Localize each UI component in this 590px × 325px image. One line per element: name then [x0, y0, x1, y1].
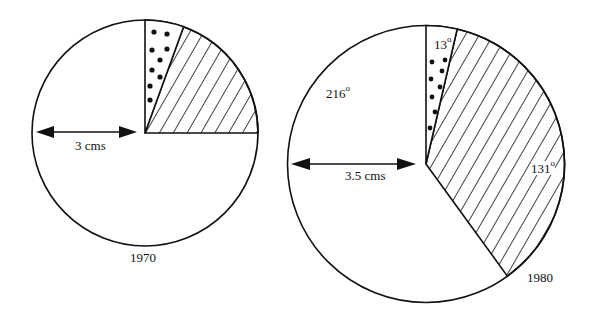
radius-label-1980: 3.5 cms [345, 169, 385, 182]
year-label-1980: 1980 [527, 271, 553, 284]
pie-charts-svg [0, 0, 590, 325]
angle-label-13: 13o [434, 37, 452, 51]
angle-label-131: 131o [531, 161, 555, 175]
pie-diagram: 3 cms 1970 3.5 cms 1980 216o 13o 131o [0, 0, 590, 325]
pie-1980 [288, 25, 565, 302]
angle-label-216: 216o [326, 86, 350, 100]
pie-1970 [32, 20, 258, 246]
year-label-1970: 1970 [130, 251, 156, 264]
radius-label-1970: 3 cms [75, 139, 106, 152]
